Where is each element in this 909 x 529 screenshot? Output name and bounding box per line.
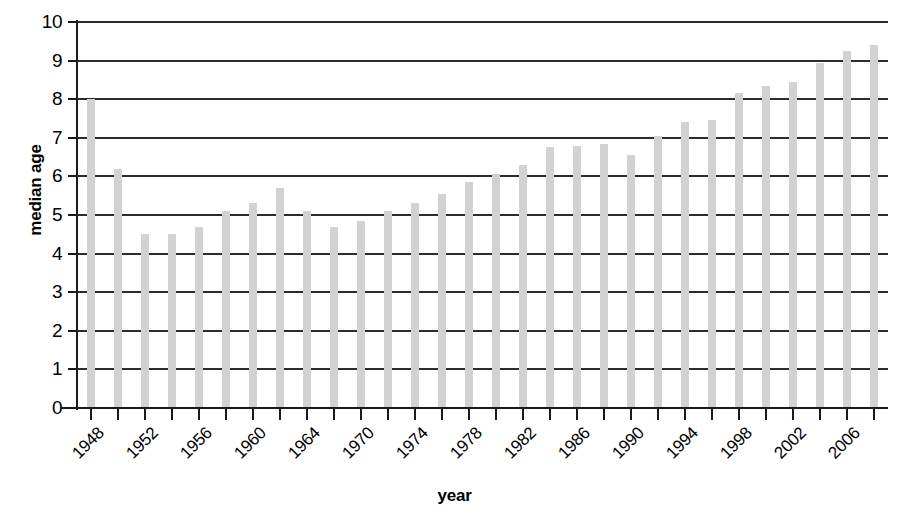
- x-tick-label: 1994: [655, 424, 702, 471]
- x-tick-mark: [306, 409, 308, 420]
- bar-chart: median age 012345678910 1948195219561960…: [0, 0, 909, 529]
- y-tick-label: 6: [28, 166, 62, 185]
- gridline: [77, 60, 888, 62]
- x-tick-mark: [333, 409, 335, 420]
- gridline: [77, 21, 888, 23]
- y-tick-label: 4: [28, 244, 62, 263]
- y-tick-label: 7: [28, 128, 62, 147]
- x-tick-label: 1978: [439, 424, 486, 471]
- bar: [789, 82, 797, 408]
- x-tick-mark: [225, 409, 227, 420]
- y-tick-mark: [68, 60, 77, 62]
- y-axis-tick-labels: 012345678910: [22, 0, 62, 529]
- bar: [762, 86, 770, 408]
- bar: [87, 99, 95, 408]
- bar: [681, 122, 689, 408]
- bar: [195, 227, 203, 408]
- bar: [573, 146, 581, 408]
- y-tick-label: 2: [28, 321, 62, 340]
- bar: [411, 203, 419, 408]
- x-tick-mark: [90, 409, 92, 420]
- bar: [519, 165, 527, 408]
- x-tick-mark: [414, 409, 416, 420]
- y-tick-label: 8: [28, 89, 62, 108]
- y-tick-label: 0: [28, 398, 62, 417]
- x-tick-mark: [630, 409, 632, 420]
- x-tick-mark: [765, 409, 767, 420]
- y-tick-label: 9: [28, 51, 62, 70]
- bar: [222, 211, 230, 408]
- x-tick-mark: [846, 409, 848, 420]
- x-tick-label: 2002: [763, 424, 810, 471]
- x-tick-label: 1970: [331, 424, 378, 471]
- bar: [600, 144, 608, 408]
- y-tick-mark: [68, 21, 77, 23]
- bar: [438, 194, 446, 408]
- x-tick-mark: [819, 409, 821, 420]
- x-tick-mark: [495, 409, 497, 420]
- x-tick-label: 1948: [61, 424, 108, 471]
- x-tick-mark: [792, 409, 794, 420]
- x-tick-mark: [171, 409, 173, 420]
- x-tick-mark: [684, 409, 686, 420]
- x-tick-label: 1986: [547, 424, 594, 471]
- x-tick-mark: [711, 409, 713, 420]
- bar: [627, 155, 635, 408]
- bar: [492, 174, 500, 408]
- x-tick-mark: [522, 409, 524, 420]
- plot-area: [77, 22, 888, 408]
- y-tick-label: 5: [28, 205, 62, 224]
- x-tick-label: 1956: [169, 424, 216, 471]
- x-tick-mark: [657, 409, 659, 420]
- x-tick-mark: [387, 409, 389, 420]
- x-tick-mark: [873, 409, 875, 420]
- bar: [357, 221, 365, 408]
- x-tick-mark: [252, 409, 254, 420]
- y-tick-mark: [68, 291, 77, 293]
- bar: [330, 227, 338, 408]
- bar: [276, 188, 284, 408]
- bar: [384, 211, 392, 408]
- x-axis-line: [60, 407, 888, 409]
- x-tick-mark: [738, 409, 740, 420]
- bar: [735, 93, 743, 408]
- x-tick-mark: [360, 409, 362, 420]
- x-tick-mark: [549, 409, 551, 420]
- y-tick-mark: [68, 214, 77, 216]
- bar: [114, 169, 122, 408]
- x-tick-label: 1952: [115, 424, 162, 471]
- x-tick-mark: [279, 409, 281, 420]
- y-tick-mark: [68, 137, 77, 139]
- bar: [708, 120, 716, 408]
- bar: [465, 182, 473, 408]
- x-tick-mark: [144, 409, 146, 420]
- bar: [870, 45, 878, 408]
- bar: [546, 147, 554, 408]
- x-tick-label: 1998: [709, 424, 756, 471]
- x-tick-mark: [117, 409, 119, 420]
- x-tick-label: 1974: [385, 424, 432, 471]
- y-tick-mark: [68, 175, 77, 177]
- bar: [303, 211, 311, 408]
- y-tick-mark: [68, 98, 77, 100]
- y-tick-mark: [68, 253, 77, 255]
- x-tick-mark: [441, 409, 443, 420]
- y-tick-label: 10: [28, 12, 62, 31]
- x-tick-label: 2006: [817, 424, 864, 471]
- x-tick-label: 1960: [223, 424, 270, 471]
- y-tick-mark: [68, 330, 77, 332]
- bar: [249, 203, 257, 408]
- y-tick-label: 3: [28, 282, 62, 301]
- bar: [843, 51, 851, 408]
- bar: [816, 63, 824, 408]
- x-tick-label: 1990: [601, 424, 648, 471]
- bar: [168, 234, 176, 408]
- x-axis-title: year: [0, 486, 909, 506]
- x-tick-label: 1964: [277, 424, 324, 471]
- x-tick-mark: [603, 409, 605, 420]
- x-tick-mark: [576, 409, 578, 420]
- x-tick-mark: [468, 409, 470, 420]
- y-tick-mark: [68, 368, 77, 370]
- bar: [654, 136, 662, 408]
- x-tick-label: 1982: [493, 424, 540, 471]
